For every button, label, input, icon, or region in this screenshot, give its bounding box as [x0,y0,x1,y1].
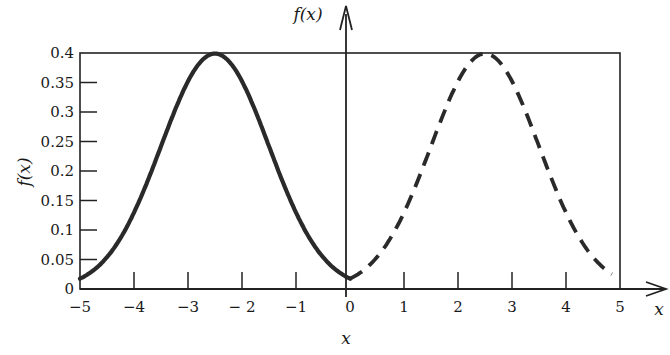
y-tick-label: 0.05 [41,251,74,269]
x-tick-label: 2 [453,298,463,316]
x-tick-label: 0 [345,298,355,316]
y-axis-title: f(x) [14,157,34,188]
x-tick-label: −3 [177,298,199,316]
plot-frame [80,53,620,289]
x-tick-label: 4 [561,298,571,316]
solid-curve [80,54,350,279]
x-tick-label: 5 [615,298,625,316]
x-tick-label: 1 [399,298,409,316]
y-tick-label: 0.4 [50,44,74,62]
x-axis-title: x [341,328,351,348]
y-tick-label: 0.15 [41,192,74,210]
y-tick-label: 0 [64,280,74,298]
x-tick-label: 3 [507,298,517,316]
y-tick-label: 0.1 [50,221,74,239]
y-ticks: 00.050.10.150.20.250.30.350.4 [41,44,97,298]
chart: 00.050.10.150.20.250.30.350.4 −5−4−3− 2−… [0,0,670,355]
y-tick-label: 0.3 [50,103,74,121]
x-tick-label: −4 [123,298,145,316]
x-tick-label: −5 [69,298,91,316]
y-tick-label: 0.25 [41,133,74,151]
x-arrow-label: x [654,299,664,319]
dashed-curve [350,54,612,279]
y-tick-label: 0.35 [41,74,74,92]
y-arrow-label: f(x) [291,4,322,24]
x-tick-label: − 2 [229,298,256,316]
y-tick-label: 0.2 [50,162,74,180]
x-tick-label: −1 [285,298,307,316]
